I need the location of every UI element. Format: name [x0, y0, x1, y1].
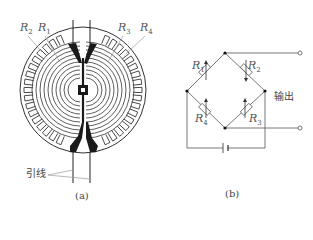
caption-a: (a) [75, 191, 89, 201]
label-b-r4: R4 [195, 113, 208, 127]
battery-icon [223, 143, 228, 153]
label-b-r1: R1 [192, 60, 205, 74]
label-a-r4: R4 [140, 22, 153, 36]
output-terminal-top [298, 51, 302, 55]
label-sub: 1 [46, 28, 50, 36]
label-sub: 2 [28, 28, 32, 36]
label-a-r3: R3 [118, 22, 131, 36]
label-b-r2: R2 [248, 60, 261, 74]
output-terminals [298, 51, 302, 130]
output-terminal-bottom [298, 126, 302, 130]
label-sub: 4 [148, 28, 152, 36]
label-a-r1: R1 [38, 22, 51, 36]
label-sub: 2 [256, 66, 260, 74]
label-sub: 1 [200, 66, 204, 74]
label-sub: 3 [126, 28, 130, 36]
strain-gauge-rosette [20, 27, 146, 153]
label-sub: 3 [257, 119, 261, 127]
output-label: 输出 [274, 92, 294, 102]
caption-b: (b) [225, 189, 239, 199]
label-a-r2: R2 [20, 22, 33, 36]
lead-wire-label: 引线 [26, 169, 46, 179]
label-sub: 4 [203, 119, 207, 127]
label-b-r3: R3 [249, 113, 262, 127]
